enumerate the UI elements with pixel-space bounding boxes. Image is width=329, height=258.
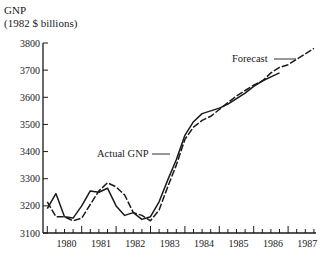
y-tick-label: 3400 (20, 146, 40, 157)
y-tick-label: 3200 (20, 200, 40, 211)
y-tick-label: 3700 (20, 65, 40, 76)
y-tick-label: 3500 (20, 119, 40, 130)
x-tick-label: 1980 (57, 238, 77, 249)
x-tick-label: 1984 (194, 238, 214, 249)
series-group (47, 48, 314, 220)
gnp-line-chart: 3100320033003400350036003700380019801981… (0, 0, 329, 258)
y-tick-label: 3300 (20, 173, 40, 184)
actual-gnp-label: Actual GNP (97, 148, 149, 159)
y-tick-label: 3600 (20, 92, 40, 103)
y-tick-label: 3800 (20, 38, 40, 49)
x-tick-label: 1981 (91, 238, 111, 249)
x-tick-label: 1985 (229, 238, 249, 249)
x-tick-label: 1983 (160, 238, 180, 249)
forecast-label: Forecast (232, 53, 268, 64)
y-tick-label: 3100 (20, 228, 40, 239)
annotations: Actual GNPForecast (97, 53, 296, 159)
x-tick-label: 1987 (297, 238, 317, 249)
x-tick-label: 1982 (125, 238, 145, 249)
x-tick-label: 1986 (263, 238, 283, 249)
